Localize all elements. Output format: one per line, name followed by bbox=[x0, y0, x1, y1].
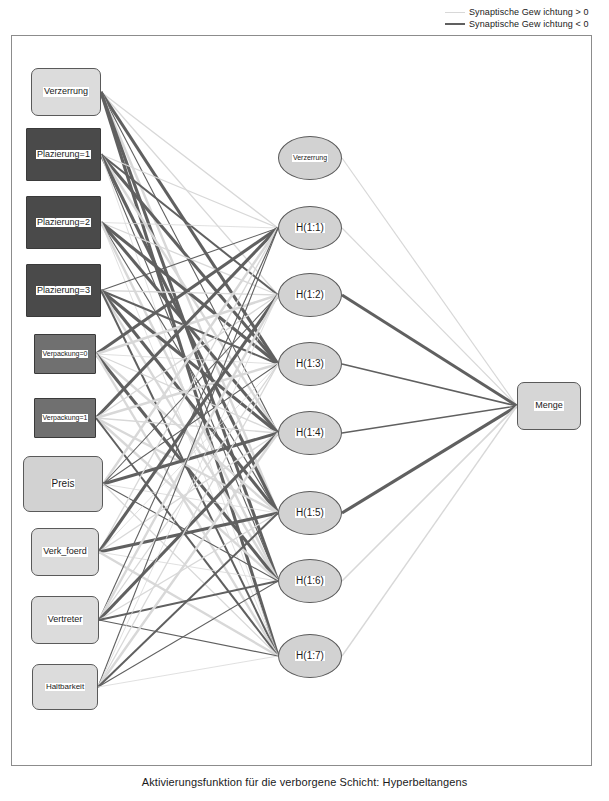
input-layer-node[interactable]: Verpackung=0 bbox=[34, 334, 96, 374]
hidden-layer-node[interactable]: H(1:3) bbox=[278, 342, 342, 386]
negative-weight-line-icon bbox=[445, 23, 465, 25]
input-layer-node-label: Vertreter bbox=[47, 615, 84, 624]
hidden-layer-node[interactable]: H(1:5) bbox=[278, 491, 342, 535]
output-layer-node[interactable]: Menge bbox=[517, 382, 581, 430]
output-layer-node-label: Menge bbox=[534, 401, 564, 410]
legend: Synaptische Gew ichtung > 0 Synaptische … bbox=[445, 6, 605, 30]
hidden-layer-node[interactable]: H(1:4) bbox=[278, 411, 342, 455]
hidden-layer-node-label: H(1:1) bbox=[295, 223, 325, 234]
edge-hidden-to-output bbox=[342, 406, 517, 581]
neural-network-diagram: Synaptische Gew ichtung > 0 Synaptische … bbox=[0, 0, 609, 801]
input-layer-node[interactable]: Haltbarkeit bbox=[32, 664, 98, 710]
edge-hidden-to-output bbox=[342, 406, 517, 513]
edge-hidden-to-output bbox=[342, 295, 517, 406]
hidden-layer-node[interactable]: H(1:2) bbox=[278, 273, 342, 317]
input-layer-node[interactable]: Verzerrung bbox=[31, 68, 101, 116]
hidden-layer-node[interactable]: H(1:1) bbox=[278, 206, 342, 250]
edge-hidden-to-output bbox=[342, 228, 517, 406]
edge-input-to-hidden bbox=[101, 92, 278, 295]
input-layer-node-label: Plazierung=3 bbox=[36, 286, 91, 295]
input-layer-node-label: Verk_foerd bbox=[42, 547, 88, 556]
edge-hidden-to-output bbox=[342, 364, 517, 406]
input-layer-node-label: Haltbarkeit bbox=[45, 683, 85, 691]
hidden-layer-node[interactable]: H(1:6) bbox=[278, 559, 342, 603]
diagram-canvas: VerzerrungPlazierung=1Plazierung=2Plazie… bbox=[11, 35, 592, 766]
input-layer-node-label: Verpackung=0 bbox=[42, 350, 89, 357]
legend-positive-label: Synaptische Gew ichtung > 0 bbox=[469, 7, 589, 18]
hidden-layer-node-label: H(1:3) bbox=[295, 359, 325, 370]
input-layer-node-label: Plazierung=1 bbox=[36, 150, 91, 159]
diagram-caption: Aktivierungsfunktion für die verborgene … bbox=[0, 776, 609, 788]
input-layer-node[interactable]: Plazierung=1 bbox=[26, 128, 101, 181]
input-layer-node[interactable]: Preis bbox=[23, 456, 103, 512]
edge-hidden-to-output bbox=[342, 158, 517, 406]
edge-hidden-to-output bbox=[342, 406, 517, 656]
hidden-layer-node-label: H(1:6) bbox=[295, 576, 325, 587]
legend-negative-label: Synaptische Gew ichtung < 0 bbox=[469, 19, 589, 30]
input-layer-node[interactable]: Verpackung=1 bbox=[34, 398, 96, 438]
hidden-layer-node-label: H(1:5) bbox=[295, 508, 325, 519]
input-layer-node[interactable]: Verk_foerd bbox=[31, 528, 99, 576]
legend-item-positive: Synaptische Gew ichtung > 0 bbox=[445, 6, 605, 18]
legend-item-negative: Synaptische Gew ichtung < 0 bbox=[445, 18, 605, 30]
input-layer-node[interactable]: Plazierung=3 bbox=[26, 264, 101, 317]
edge-input-to-hidden bbox=[101, 155, 278, 229]
input-layer-node[interactable]: Vertreter bbox=[31, 596, 99, 644]
hidden-layer-node-label: H(1:4) bbox=[295, 428, 325, 439]
edge-input-to-hidden bbox=[101, 228, 278, 291]
input-layer-node[interactable]: Plazierung=2 bbox=[26, 196, 101, 249]
hidden-layer-node[interactable]: H(1:7) bbox=[278, 634, 342, 678]
hidden-layer-node-label: H(1:7) bbox=[295, 651, 325, 662]
input-layer-node-label: Plazierung=2 bbox=[36, 218, 91, 227]
input-layer-node-label: Verpackung=1 bbox=[42, 414, 89, 421]
positive-weight-line-icon bbox=[445, 12, 465, 13]
hidden-layer-node-label: H(1:2) bbox=[295, 290, 325, 301]
input-layer-node-label: Preis bbox=[51, 479, 76, 490]
edge-hidden-to-output bbox=[342, 406, 517, 433]
hidden-layer-node[interactable]: Verzerrung bbox=[278, 136, 342, 180]
input-layer-node-label: Verzerrung bbox=[43, 87, 89, 96]
hidden-layer-node-label: Verzerrung bbox=[292, 154, 328, 161]
